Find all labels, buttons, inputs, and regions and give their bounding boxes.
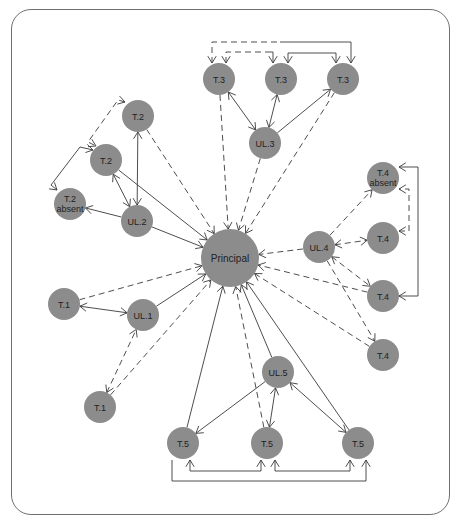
edge-line: [137, 132, 138, 205]
edge-line: [236, 286, 264, 427]
connector-line: [88, 100, 125, 146]
node-circle[interactable]: [265, 63, 297, 95]
edge-t1a-principal: [79, 264, 202, 300]
node-t2b[interactable]: T.2: [90, 144, 122, 176]
connector-t3b-t3c-solid: [284, 53, 340, 63]
edge-line: [187, 286, 223, 427]
node-ul4[interactable]: UL.4: [303, 231, 335, 263]
connector-line: [226, 52, 270, 63]
connector-line: [190, 460, 261, 471]
edge-line: [220, 95, 228, 229]
edge-ul4-principal: [259, 249, 303, 258]
node-circle[interactable]: [121, 205, 153, 237]
edge-line: [327, 261, 375, 341]
node-ul2[interactable]: UL.2: [121, 205, 153, 237]
node-t1b[interactable]: T.1: [84, 391, 116, 423]
edge-ul5-t5a: [196, 382, 265, 434]
node-t5b[interactable]: T.5: [251, 427, 283, 459]
edge-ul1-principal: [156, 274, 205, 306]
connector-line: [288, 53, 336, 63]
connector-line: [399, 167, 418, 296]
connector-t3-dashed-outer: [208, 42, 280, 63]
node-t4b[interactable]: T.4: [367, 280, 399, 312]
node-t3a[interactable]: T.3: [203, 63, 235, 95]
node-circle[interactable]: [251, 427, 283, 459]
edge-line: [79, 266, 202, 300]
edge-t4c-principal: [254, 274, 369, 347]
node-circle[interactable]: [367, 162, 399, 194]
edge-line: [107, 329, 136, 392]
node-circle[interactable]: [367, 339, 399, 371]
node-ul1[interactable]: UL.1: [127, 299, 159, 331]
org-network-diagram: PrincipalT.3T.3T.3UL.3T.2T.2T.2absentUL.…: [0, 0, 461, 526]
edge-t3a-ul3: [228, 92, 255, 130]
connector-t5-inner: [186, 460, 265, 471]
node-circle[interactable]: [249, 127, 281, 159]
node-circle[interactable]: [367, 222, 399, 254]
connector-t4b-t4abs-solid: [399, 163, 418, 300]
node-circle[interactable]: [127, 299, 159, 331]
edge-line: [152, 227, 203, 247]
connector-t5-outer: [172, 460, 370, 481]
node-t5c[interactable]: T.5: [342, 427, 374, 459]
edge-line: [238, 158, 260, 230]
node-circle[interactable]: [167, 427, 199, 459]
connector-t3-inner-solid: [269, 52, 277, 63]
edge-ul2-t2abs: [86, 206, 122, 218]
connector-t3-outer-solid: [280, 42, 355, 63]
node-ul3[interactable]: UL.3: [249, 127, 281, 159]
nodes-layer: PrincipalT.3T.3T.3UL.3T.2T.2T.2absentUL.…: [48, 63, 399, 459]
node-circle[interactable]: [48, 288, 80, 320]
node-circle[interactable]: [327, 63, 359, 95]
edge-t3b-ul3: [266, 95, 279, 128]
edge-t4b-principal: [258, 263, 367, 293]
edge-ul2-t2a: [133, 132, 142, 205]
edge-line: [80, 306, 127, 313]
node-t2a[interactable]: T.2: [122, 100, 154, 132]
arrowhead-icon: [106, 385, 114, 393]
edge-t1b-principal: [111, 280, 211, 395]
connector-line: [212, 42, 280, 63]
node-t2abs[interactable]: T.2absent: [54, 188, 86, 220]
edge-line: [258, 265, 367, 292]
edge-line: [147, 129, 215, 233]
edge-ul2-t2b: [113, 174, 131, 206]
node-circle[interactable]: [367, 280, 399, 312]
connector-t4a-t4abs-dashed: [399, 185, 409, 235]
edge-line: [196, 382, 265, 434]
edge-ul4-t4abs: [330, 190, 372, 236]
edge-line: [332, 257, 371, 287]
node-t1a[interactable]: T.1: [48, 288, 80, 320]
edge-line: [254, 274, 369, 347]
edge-line: [156, 274, 205, 306]
node-circle[interactable]: [90, 144, 122, 176]
node-circle[interactable]: [203, 63, 235, 95]
node-circle[interactable]: [84, 391, 116, 423]
node-t4abs[interactable]: T.4absent: [367, 162, 399, 194]
node-circle[interactable]: [122, 100, 154, 132]
edge-ul5-t5b: [266, 388, 278, 427]
edge-line: [259, 249, 303, 254]
edge-ul5-t5c: [290, 383, 346, 433]
node-principal[interactable]: Principal: [201, 229, 259, 287]
node-t5a[interactable]: T.5: [167, 427, 199, 459]
node-t4a[interactable]: T.4: [367, 222, 399, 254]
node-circle[interactable]: [262, 356, 294, 388]
node-circle[interactable]: [54, 188, 86, 220]
node-t3b[interactable]: T.3: [265, 63, 297, 95]
node-circle[interactable]: [303, 231, 335, 263]
connector-line: [280, 42, 351, 63]
node-circle[interactable]: [342, 427, 374, 459]
edge-line: [290, 383, 346, 433]
node-t4c[interactable]: T.4: [367, 339, 399, 371]
node-ul5[interactable]: UL.5: [262, 356, 294, 388]
arrowhead-icon: [362, 279, 370, 286]
edge-ul4-t4c: [327, 261, 375, 341]
edge-t5b-principal: [233, 286, 264, 427]
connector-t5-inner2: [271, 460, 354, 471]
edge-ul4-t4b: [332, 257, 371, 287]
edge-line: [113, 174, 130, 206]
node-t3c[interactable]: T.3: [327, 63, 359, 95]
node-circle[interactable]: [201, 229, 259, 287]
edge-t1a-ul1: [80, 303, 127, 316]
